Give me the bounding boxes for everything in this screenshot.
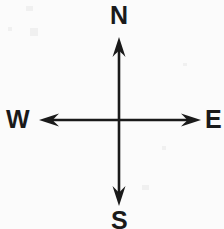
direction-label-east: E [205, 107, 222, 132]
direction-label-south: S [111, 208, 128, 229]
compass-diagram-canvas: N W E S [0, 0, 224, 229]
direction-label-west: W [6, 107, 30, 132]
direction-label-north: N [110, 3, 128, 28]
compass-axes-svg [0, 0, 224, 229]
